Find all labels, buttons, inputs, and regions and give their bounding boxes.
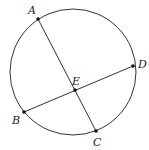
label-a: A — [27, 4, 36, 17]
label-b: B — [11, 114, 20, 127]
circle-diagram: A B C D E — [0, 0, 149, 150]
chord-bd — [24, 66, 133, 112]
label-c: C — [93, 136, 102, 149]
point-e — [73, 88, 77, 92]
chord-ac — [38, 19, 96, 131]
point-c — [94, 129, 98, 133]
point-d — [131, 64, 135, 68]
point-a — [36, 17, 40, 21]
point-b — [22, 110, 26, 114]
circle — [10, 9, 136, 135]
label-e: E — [71, 75, 80, 88]
label-d: D — [137, 58, 147, 71]
